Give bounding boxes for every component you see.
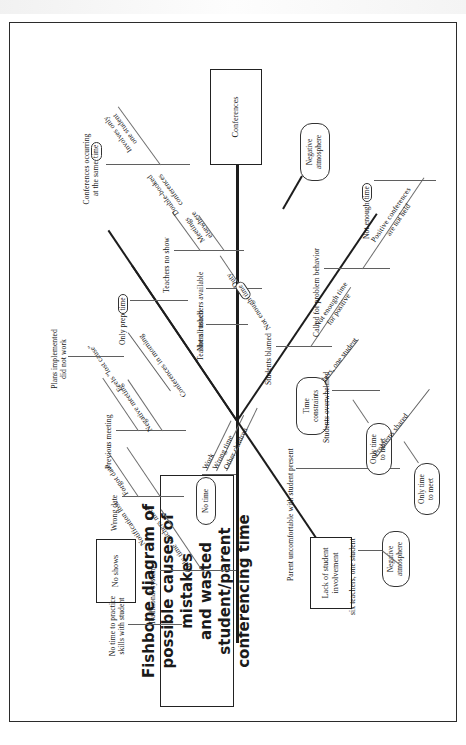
pill-time-lower: time xyxy=(362,183,372,202)
connector-only-time-to-meet-2 xyxy=(404,441,419,463)
label-conferences-in-morning: Conferences in morning xyxy=(130,325,194,408)
head-box-label: Conferences xyxy=(231,97,241,138)
category-oval-no-time: No time xyxy=(196,477,216,525)
oval-negative-atmosphere-left: Negative atmosphere xyxy=(382,531,410,587)
label-conf-morning-2: morning xyxy=(136,333,159,360)
label-conf-morning-1: Conferences in xyxy=(153,356,188,399)
spine-line xyxy=(236,163,239,643)
label-students-overwhelmed: Students overwhelmed xyxy=(322,372,331,443)
stem-students-blamed xyxy=(276,346,332,347)
stem-students-overwhelmed xyxy=(332,390,380,391)
label-called-for-problem-behavior: Called for problem behavior xyxy=(312,248,321,337)
stem-no-time-group xyxy=(202,474,236,475)
pill-time-same: time xyxy=(91,142,101,161)
category-label-no-time: No time xyxy=(202,489,211,513)
category-label-lack-line1: Lack of student xyxy=(321,548,331,599)
label-plans-implemented-line1: Plans implemented xyxy=(50,297,59,421)
label-neg-atmos-right-2: atmosphere xyxy=(315,135,324,169)
stem-called-for-problem-behavior xyxy=(324,268,390,269)
label-students-blamed: Students blamed xyxy=(264,333,273,385)
stem-only-prep xyxy=(130,300,188,301)
label-only-time-meet-2b: to meet xyxy=(427,474,436,504)
label-previous-meeting: Previous meeting xyxy=(104,414,113,469)
label-conferences-same-time: Conferences occurring at the sametime xyxy=(82,99,102,239)
label-net-positive-1: Not enough time xyxy=(302,264,361,345)
pill-time-prep: time xyxy=(118,294,128,313)
label-conf-same-time-2: at the same xyxy=(91,161,100,196)
stem-teachers-rushed xyxy=(206,324,248,325)
stem-plans-implemented xyxy=(68,356,124,357)
stem-traditional-system xyxy=(160,570,236,571)
label-not-enough-time-lower-text: Not enough xyxy=(362,202,371,239)
head-box-conferences: Conferences xyxy=(210,69,262,165)
stem-no-time-practice xyxy=(128,624,182,625)
label-six-teachers-one-student: six teachers, one student xyxy=(348,538,357,615)
scan-artifact-strip xyxy=(0,0,466,14)
oval-only-time-to-meet-2: Only time to meet xyxy=(414,463,440,515)
label-plans-implemented: Plans implemented did not work xyxy=(50,297,68,421)
label-conf-same-time-1: Conferences occurring xyxy=(82,99,91,239)
stem-wrong-date xyxy=(122,496,184,497)
label-time-constraints-2: constraints xyxy=(312,390,321,422)
label-parent-uncomfortable: Parent uncomfortable with student presen… xyxy=(286,448,295,581)
label-neg-atmos-left-2: atmosphere xyxy=(396,542,405,576)
category-label-lack-line2: involvement xyxy=(331,548,341,599)
connector-only-time-to-meet-1 xyxy=(352,400,368,424)
figure-frame: Fishbone diagram of possible causes of m… xyxy=(9,22,457,722)
label-not-all-teachers-available: Not all teachers available xyxy=(196,271,205,351)
label-only-prep: Only preptime xyxy=(118,294,128,345)
fishbone-canvas: Fishbone diagram of possible causes of m… xyxy=(10,23,456,721)
label-double-booked: Double-booked conferences xyxy=(139,159,195,226)
connector-negative-atmosphere-right xyxy=(282,176,303,210)
label-plans-implemented-line2: did not work xyxy=(59,297,68,421)
label-feels-lost-cause: Feels "lost cause" xyxy=(86,342,125,393)
oval-negative-atmosphere-right: Negative atmosphere xyxy=(300,123,330,181)
label-teachers-no-show: Teachers no show xyxy=(162,237,171,293)
category-box-lack-of-student-involvement: Lack of student involvement xyxy=(310,537,352,609)
label-no-time-practice-line2: skills with student xyxy=(117,571,126,681)
label-only-prep-text: Only prep xyxy=(118,314,127,345)
label-not-enough-time-upper-text: Not enough xyxy=(244,296,272,331)
label-not-enough-time-lower: Not enoughtime xyxy=(362,183,372,239)
stem-conferences-same-time xyxy=(106,164,190,165)
label-no-time-practice-line1: No time to practice xyxy=(108,571,117,681)
label-involves-only-2: one student xyxy=(97,93,153,165)
stem-not-enough-time-lower xyxy=(374,180,436,181)
label-no-time-practice: No time to practice skills with student xyxy=(108,571,126,681)
label-traditional-system: Traditional system xyxy=(148,567,157,625)
